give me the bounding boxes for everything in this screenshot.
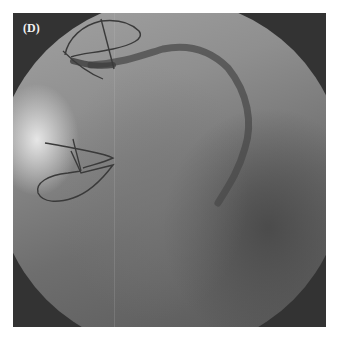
vessel-arc xyxy=(91,47,249,203)
wire-loop-left-2 xyxy=(38,151,113,201)
angiogram-image: (D) xyxy=(13,13,326,327)
structures-overlay xyxy=(13,13,326,327)
wire-loop-left-3 xyxy=(73,139,81,171)
panel-label: (D) xyxy=(23,21,40,36)
